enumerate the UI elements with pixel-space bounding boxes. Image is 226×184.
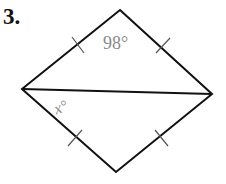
rhombus-diagram: 98° x° (0, 0, 226, 184)
angle-x-label: x° (50, 96, 70, 117)
angle-98-label: 98° (103, 33, 128, 53)
diagonal (22, 89, 212, 94)
